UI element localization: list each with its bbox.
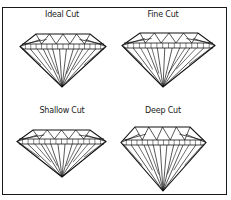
shallow-cut-diamond — [17, 130, 106, 177]
fine-cut-diamond — [122, 33, 215, 87]
ideal-cut-diamond — [20, 34, 106, 87]
diamond-diagrams — [0, 0, 231, 200]
deep-cut-diamond — [121, 127, 206, 191]
